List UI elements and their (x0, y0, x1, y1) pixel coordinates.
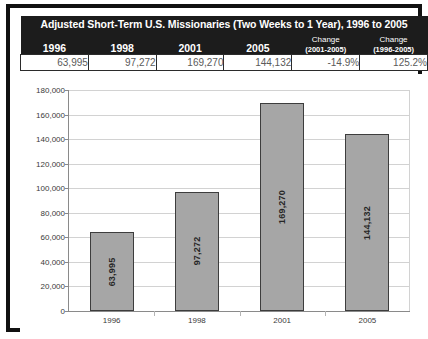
y-axis-tick-label: 120,000 (36, 159, 65, 168)
column-header-2001: 2001 (156, 32, 224, 55)
table-title: Adjusted Short-Term U.S. Missionaries (T… (21, 16, 428, 32)
outer-frame: Adjusted Short-Term U.S. Missionaries (T… (6, 4, 422, 332)
column-header-1996-label: 1996 (43, 42, 66, 54)
table-cell-1998: 97,272 (88, 55, 156, 71)
column-header-1996: 1996 (21, 32, 89, 55)
y-axis-tick-label: 40,000 (41, 257, 65, 266)
gridline (69, 115, 410, 116)
y-axis-tick-mark (65, 262, 69, 263)
x-axis-tick-label-2001: 2001 (273, 316, 291, 325)
data-table: Adjusted Short-Term U.S. Missionaries (T… (20, 16, 428, 71)
bar-value-label: 144,132 (362, 206, 372, 240)
x-axis-tick-label-1996: 1996 (103, 316, 121, 325)
plot-area: 020,00040,00060,00080,000100,000120,0001… (68, 90, 410, 312)
y-axis-tick-mark (65, 90, 69, 91)
y-axis-tick-mark (65, 213, 69, 214)
column-header-1998-label: 1998 (111, 42, 134, 54)
column-header-2005: 2005 (224, 32, 292, 55)
column-header-change-2001-2005: Change (2001-2005) (292, 32, 360, 55)
summary-table: Adjusted Short-Term U.S. Missionaries (T… (20, 16, 428, 71)
table-cell-change-1996-2005: 125.2% (360, 55, 428, 71)
table-cell-1996: 63,995 (21, 55, 89, 71)
y-axis-tick-label: 20,000 (41, 282, 65, 291)
bar-2001: 169,270 (260, 103, 304, 311)
table-title-row: Adjusted Short-Term U.S. Missionaries (T… (21, 16, 428, 32)
column-header-change-1996-2005: Change (1996-2005) (360, 32, 428, 55)
bar-1998: 97,272 (175, 192, 219, 311)
column-header-2005-label: 2005 (246, 42, 269, 54)
y-axis-tick-mark (65, 164, 69, 165)
y-axis-tick-mark (65, 139, 69, 140)
y-axis-tick-label: 140,000 (36, 135, 65, 144)
column-header-1998: 1998 (88, 32, 156, 55)
column-header-change-1996-2005-top: Change (360, 35, 428, 45)
plot-right-edge (409, 90, 410, 311)
column-header-change-2001-2005-range: (2001-2005) (292, 45, 360, 54)
x-axis-tick-label-2005: 2005 (358, 316, 376, 325)
column-header-2001-label: 2001 (178, 42, 201, 54)
table-header-row: 1996 1998 2001 2005 Chang (21, 32, 428, 55)
y-axis-tick-mark (65, 188, 69, 189)
x-axis-separator (325, 311, 326, 316)
y-axis-tick-mark (65, 286, 69, 287)
y-axis-tick-mark (65, 115, 69, 116)
y-axis-tick-mark (65, 237, 69, 238)
bar-2005: 144,132 (345, 134, 389, 311)
x-axis-separator (240, 311, 241, 316)
y-axis-tick-label: 180,000 (36, 86, 65, 95)
table-cell-change-2001-2005: -14.9% (292, 55, 360, 71)
x-axis-tick-label-1998: 1998 (188, 316, 206, 325)
y-axis-tick-label: 60,000 (41, 233, 65, 242)
column-header-change-1996-2005-range: (1996-2005) (360, 45, 428, 54)
y-axis-tick-mark (65, 311, 69, 312)
bar-value-label: 169,270 (277, 190, 287, 224)
bar-value-label: 63,995 (107, 257, 117, 286)
bar-1996: 63,995 (90, 232, 134, 311)
y-axis-tick-label: 80,000 (41, 208, 65, 217)
screenshot-root: Adjusted Short-Term U.S. Missionaries (T… (0, 0, 428, 339)
bar-value-label: 97,272 (192, 237, 202, 266)
table-value-row: 63,995 97,272 169,270 144,132 -14.9% 125… (21, 55, 428, 71)
x-axis-separator (154, 311, 155, 316)
table-cell-2001: 169,270 (156, 55, 224, 71)
bar-chart: 020,00040,00060,00080,000100,000120,0001… (20, 74, 428, 332)
column-header-change-2001-2005-top: Change (292, 35, 360, 45)
y-axis-tick-label: 160,000 (36, 110, 65, 119)
y-axis-tick-label: 100,000 (36, 184, 65, 193)
gridline (69, 90, 410, 91)
table-cell-2005: 144,132 (224, 55, 292, 71)
